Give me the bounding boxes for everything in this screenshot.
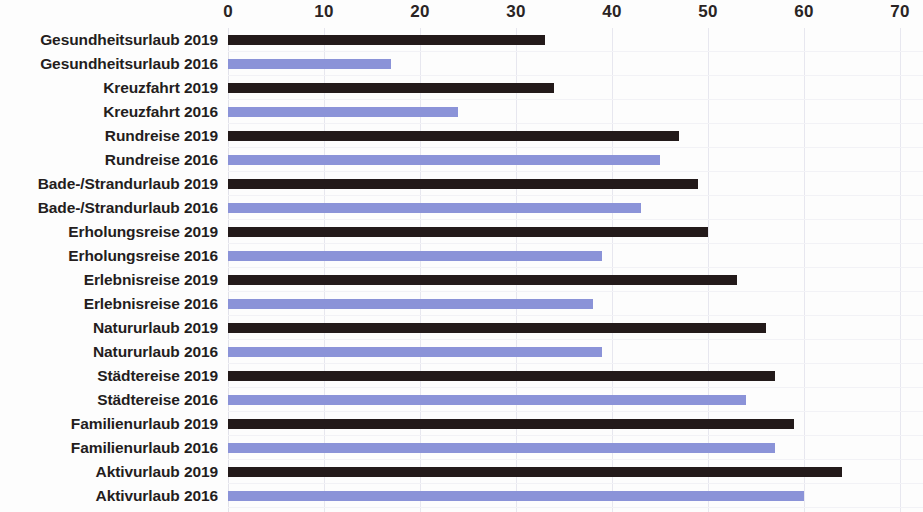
bar-row: Familienurlaub 2019 (0, 412, 923, 436)
bar-track (228, 484, 900, 508)
x-tick-label-50: 50 (698, 2, 717, 22)
bar-row: Rundreise 2019 (0, 124, 923, 148)
bar-row: Bade-/Strandurlaub 2016 (0, 196, 923, 220)
bar-row-label: Bade-/Strandurlaub 2019 (38, 172, 218, 196)
bar-2016 (228, 59, 391, 69)
bar-track (228, 436, 900, 460)
bar-row: Rundreise 2016 (0, 148, 923, 172)
bar-rows: Gesundheitsurlaub 2019Gesundheitsurlaub … (0, 28, 923, 512)
bar-row: Städtereise 2016 (0, 388, 923, 412)
x-axis: 010203040506070 (0, 0, 923, 28)
bar-row-label: Natururlaub 2016 (93, 340, 218, 364)
bar-track (228, 148, 900, 172)
bar-2019 (228, 83, 554, 93)
bar-row-label: Erlebnisreise 2019 (84, 268, 218, 292)
bar-row-label: Aktivurlaub 2019 (96, 460, 218, 484)
bar-2019 (228, 179, 698, 189)
bar-row-label: Natururlaub 2019 (93, 316, 218, 340)
bar-track (228, 364, 900, 388)
bar-2016 (228, 155, 660, 165)
bar-row-label: Kreuzfahrt 2019 (103, 76, 218, 100)
bar-row-label: Erholungsreise 2016 (68, 244, 218, 268)
bar-row-label: Rundreise 2019 (105, 124, 218, 148)
bar-track (228, 412, 900, 436)
bar-2016 (228, 107, 458, 117)
x-tick-label-40: 40 (602, 2, 621, 22)
bar-row: Aktivurlaub 2016 (0, 484, 923, 508)
x-tick-label-10: 10 (314, 2, 333, 22)
bar-track (228, 124, 900, 148)
bar-row: Gesundheitsurlaub 2019 (0, 28, 923, 52)
bar-2019 (228, 275, 737, 285)
bar-row: Erlebnisreise 2019 (0, 268, 923, 292)
bar-track (228, 196, 900, 220)
bar-track (228, 292, 900, 316)
bar-row: Natururlaub 2019 (0, 316, 923, 340)
bar-2016 (228, 251, 602, 261)
bar-row-label: Erlebnisreise 2016 (84, 292, 218, 316)
bar-2019 (228, 371, 775, 381)
bar-track (228, 268, 900, 292)
bar-2019 (228, 131, 679, 141)
x-tick-label-20: 20 (410, 2, 429, 22)
bar-row: Bade-/Strandurlaub 2019 (0, 172, 923, 196)
bar-row-label: Erholungsreise 2019 (68, 220, 218, 244)
bar-2016 (228, 299, 593, 309)
x-tick-label-60: 60 (794, 2, 813, 22)
x-tick-label-0: 0 (223, 2, 233, 22)
horizontal-bar-chart: 010203040506070 Gesundheitsurlaub 2019Ge… (0, 0, 923, 512)
bar-track (228, 76, 900, 100)
bar-2019 (228, 419, 794, 429)
bar-row-label: Familienurlaub 2016 (71, 436, 218, 460)
bar-row-label: Aktivurlaub 2016 (96, 484, 218, 508)
bar-row: Familienurlaub 2016 (0, 436, 923, 460)
bar-2016 (228, 203, 641, 213)
bar-track (228, 460, 900, 484)
bar-row: Erlebnisreise 2016 (0, 292, 923, 316)
bar-row: Natururlaub 2016 (0, 340, 923, 364)
bar-row-label: Bade-/Strandurlaub 2016 (38, 196, 218, 220)
bar-track (228, 28, 900, 52)
bar-track (228, 340, 900, 364)
bar-track (228, 244, 900, 268)
bar-row-label: Kreuzfahrt 2016 (103, 100, 218, 124)
bar-2019 (228, 467, 842, 477)
bar-row-label: Städtereise 2016 (97, 388, 218, 412)
bar-2016 (228, 395, 746, 405)
x-tick-label-70: 70 (890, 2, 909, 22)
bar-row: Kreuzfahrt 2016 (0, 100, 923, 124)
bar-track (228, 172, 900, 196)
bar-row-label: Gesundheitsurlaub 2019 (40, 28, 218, 52)
bar-2016 (228, 443, 775, 453)
row-underline (228, 507, 923, 508)
bar-2016 (228, 491, 804, 501)
bar-row-label: Städtereise 2019 (97, 364, 218, 388)
bar-row: Kreuzfahrt 2019 (0, 76, 923, 100)
bar-2019 (228, 35, 545, 45)
bar-row: Erholungsreise 2019 (0, 220, 923, 244)
bar-row: Städtereise 2019 (0, 364, 923, 388)
bar-row: Erholungsreise 2016 (0, 244, 923, 268)
bar-2016 (228, 347, 602, 357)
x-tick-label-30: 30 (506, 2, 525, 22)
bar-row-label: Gesundheitsurlaub 2016 (40, 52, 218, 76)
bar-track (228, 220, 900, 244)
bar-2019 (228, 227, 708, 237)
bar-2019 (228, 323, 766, 333)
bar-track (228, 316, 900, 340)
bar-row: Gesundheitsurlaub 2016 (0, 52, 923, 76)
bar-row-label: Rundreise 2016 (105, 148, 218, 172)
bar-track (228, 100, 900, 124)
bar-track (228, 388, 900, 412)
bar-track (228, 52, 900, 76)
bar-row-label: Familienurlaub 2019 (71, 412, 218, 436)
bar-row: Aktivurlaub 2019 (0, 460, 923, 484)
